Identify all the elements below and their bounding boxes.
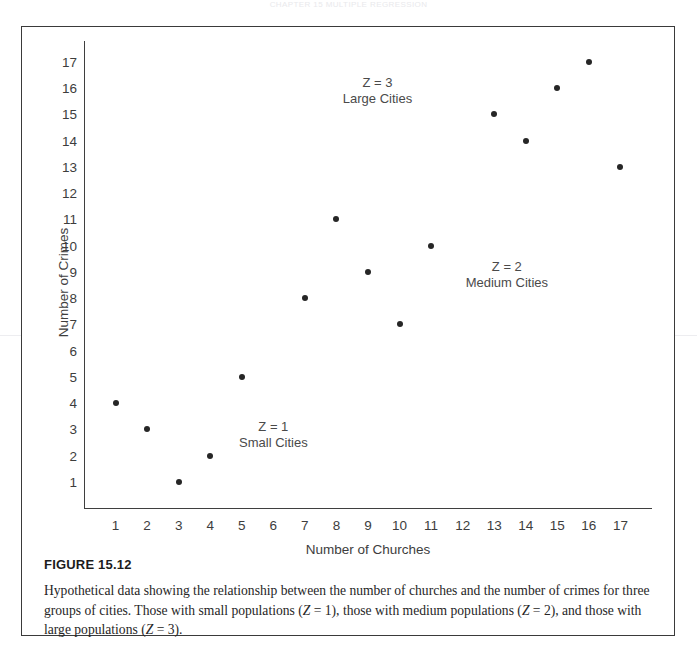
x-tick-label: 3: [167, 518, 191, 533]
running-head: CHAPTER 15 MULTIPLE REGRESSION: [0, 0, 697, 10]
y-tick-label: 1: [53, 474, 77, 489]
figure-box: 1234567891011121314151617 12345678910111…: [21, 26, 675, 636]
data-point: [617, 164, 623, 170]
data-point: [365, 269, 371, 275]
x-tick-label: 16: [577, 518, 601, 533]
group-annotation-line2: Small Cities: [239, 435, 308, 451]
data-point: [176, 479, 182, 485]
y-tick-label: 15: [53, 107, 77, 122]
group-annotation-line2: Medium Cities: [466, 275, 548, 291]
data-point: [397, 321, 403, 327]
data-point: [113, 400, 119, 406]
y-tick-label: 13: [53, 159, 77, 174]
figure-number: FIGURE 15.12: [44, 557, 656, 572]
x-tick-label: 10: [388, 518, 412, 533]
group-annotation: Z = 2Medium Cities: [466, 259, 548, 291]
data-point: [207, 453, 213, 459]
x-tick-label: 13: [482, 518, 506, 533]
x-tick-label: 5: [230, 518, 254, 533]
x-tick-label: 9: [356, 518, 380, 533]
data-point: [333, 216, 339, 222]
x-tick-label: 4: [198, 518, 222, 533]
x-tick-label: 2: [135, 518, 159, 533]
x-axis-title: Number of Churches: [84, 542, 652, 557]
x-tick-label: 8: [324, 518, 348, 533]
x-tick-label: 12: [451, 518, 475, 533]
group-annotation-line2: Large Cities: [343, 91, 412, 107]
group-annotation: Z = 3Large Cities: [343, 75, 412, 107]
y-tick-label: 12: [53, 186, 77, 201]
data-point: [428, 243, 434, 249]
data-point: [302, 295, 308, 301]
data-point: [586, 59, 592, 65]
y-tick-label: 2: [53, 448, 77, 463]
group-annotation-line1: Z = 3: [343, 75, 412, 91]
data-point: [239, 374, 245, 380]
y-tick-label: 3: [53, 422, 77, 437]
x-tick-label: 6: [261, 518, 285, 533]
y-tick-label: 16: [53, 81, 77, 96]
y-tick-label: 5: [53, 369, 77, 384]
x-tick-label: 15: [545, 518, 569, 533]
caption-block: FIGURE 15.12 Hypothetical data showing t…: [44, 557, 656, 640]
data-point: [491, 111, 497, 117]
group-annotation-line1: Z = 2: [466, 259, 548, 275]
x-tick-label: 7: [293, 518, 317, 533]
data-point: [144, 426, 150, 432]
scatter-plot: 1234567891011121314151617 12345678910111…: [22, 27, 676, 547]
x-tick-label: 11: [419, 518, 443, 533]
data-point: [554, 85, 560, 91]
group-annotation-line1: Z = 1: [239, 419, 308, 435]
y-tick-label: 4: [53, 396, 77, 411]
y-axis-line: [84, 41, 85, 509]
data-point: [523, 138, 529, 144]
group-annotation: Z = 1Small Cities: [239, 419, 308, 451]
x-tick-label: 1: [104, 518, 128, 533]
y-tick-label: 17: [53, 54, 77, 69]
figure-caption: Hypothetical data showing the relationsh…: [44, 581, 656, 640]
y-tick-label: 14: [53, 133, 77, 148]
y-axis-title: Number of Crimes: [56, 218, 71, 348]
x-tick-label: 14: [514, 518, 538, 533]
x-tick-label: 17: [608, 518, 632, 533]
x-axis-line: [84, 508, 652, 509]
